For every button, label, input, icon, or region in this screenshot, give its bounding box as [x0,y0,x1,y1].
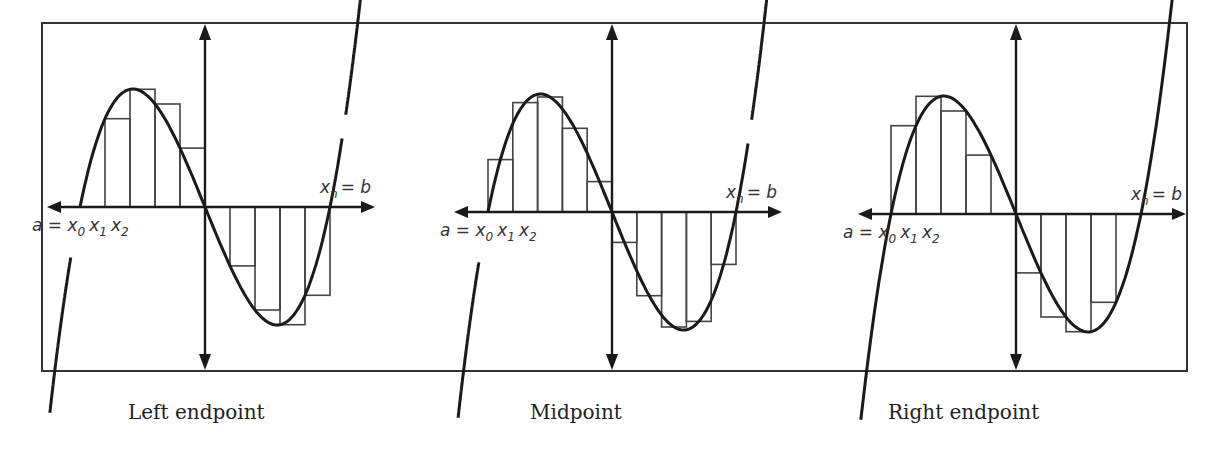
caption-left-endpoint: Left endpoint [128,400,265,424]
label-a-equals-x0: a = x0x1x2 [843,222,940,246]
riemann-rectangle [1066,214,1091,332]
y-axis-down-arrow-icon [1010,354,1022,370]
label-xn-equals-b: xn= b [1130,184,1182,208]
riemann-rectangle [587,182,612,212]
label-xn-equals-b: xn= b [319,177,371,201]
riemann-rectangle [1091,214,1116,302]
function-curve-right-tail [752,0,770,120]
riemann-rectangle [966,155,991,214]
label-xn-equals-b: xn= b [725,182,777,206]
x-axis-left-arrow-icon [454,206,468,218]
function-curve-left-tail [458,262,479,417]
riemann-rectangle [612,212,637,242]
y-axis-up-arrow-icon [199,24,211,40]
function-curve-right-tail [346,0,364,115]
x-axis-left-arrow-icon [858,208,872,220]
caption-right-endpoint: Right endpoint [888,400,1039,424]
label-a-equals-x0: a = x0x1x2 [440,220,537,244]
riemann-rectangle [255,207,280,310]
riemann-rectangle [637,212,662,296]
caption-midpoint: Midpoint [530,400,622,424]
riemann-rectangle [280,207,305,325]
riemann-rectangle [155,104,180,207]
riemann-rectangle [488,160,513,212]
riemann-rectangle [538,97,563,212]
riemann-rectangle [230,207,255,266]
function-curve-left-tail [50,257,71,412]
riemann-sum-plots: a = x0x1x2xn= ba = x0x1x2xn= ba = x0x1x2… [0,0,1219,449]
label-a-equals-x0: a = x0x1x2 [32,215,129,239]
riemann-rectangle [662,212,687,327]
x-axis-left-arrow-icon [47,201,61,213]
riemann-rectangle [916,96,941,214]
y-axis-down-arrow-icon [199,354,211,370]
riemann-rectangle [1041,214,1066,317]
riemann-rectangle [130,89,155,207]
x-axis-right-arrow-icon [768,206,782,218]
riemann-sum-figure: a = x0x1x2xn= ba = x0x1x2xn= ba = x0x1x2… [0,0,1219,449]
y-axis-down-arrow-icon [606,354,618,370]
riemann-rectangle [711,212,736,264]
y-axis-up-arrow-icon [1010,24,1022,40]
x-axis-right-arrow-icon [361,201,375,213]
riemann-rectangle [105,119,130,207]
x-axis-right-arrow-icon [1172,208,1186,220]
riemann-rectangle [562,128,587,212]
riemann-rectangle [941,111,966,214]
y-axis-up-arrow-icon [606,24,618,40]
